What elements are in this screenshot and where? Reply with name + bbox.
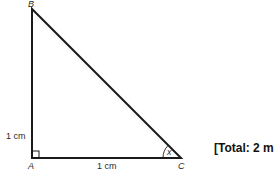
angle-label-x: x — [167, 148, 172, 157]
vertex-label-b: B — [28, 0, 34, 9]
triangle-abc — [32, 9, 181, 158]
total-marks-label: [Total: 2 m — [214, 141, 274, 155]
vertex-label-a: A — [28, 162, 34, 171]
right-angle-marker — [32, 151, 39, 158]
side-label-ab: 1 cm — [6, 132, 26, 141]
vertex-label-c: C — [178, 162, 185, 171]
side-label-ac: 1 cm — [97, 162, 117, 171]
